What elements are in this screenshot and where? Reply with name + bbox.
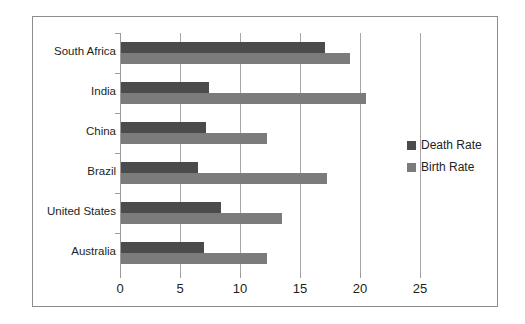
x-axis-label-25: 25 [413,281,427,296]
plot-area: South AfricaIndiaChinaBrazilUnited State… [120,33,450,273]
x-axis-label-20: 20 [353,281,367,296]
category-label-india: India [20,85,116,97]
gridline-15 [300,33,301,273]
x-axis-label-0: 0 [116,281,123,296]
bar-birth-rate-south-africa [121,53,350,64]
category-label-china: China [20,125,116,137]
x-axis-label-10: 10 [233,281,247,296]
value-axis-line [120,33,121,273]
chart-legend: Death RateBirth Rate [407,134,497,178]
gridline-20 [360,33,361,273]
bar-birth-rate-united-states [121,213,282,224]
category-axis-labels: South AfricaIndiaChinaBrazilUnited State… [16,33,116,273]
gridline-10 [240,33,241,273]
chart-figure: South AfricaIndiaChinaBrazilUnited State… [32,16,498,307]
category-label-south-africa: South Africa [20,45,116,57]
legend-item-death-rate[interactable]: Death Rate [407,134,497,156]
category-label-brazil: Brazil [20,165,116,177]
legend-label: Death Rate [421,138,482,152]
category-label-australia: Australia [20,245,116,257]
category-label-united-states: United States [20,205,116,217]
bar-birth-rate-india [121,93,366,104]
x-axis-label-15: 15 [293,281,307,296]
bar-death-rate-united-states [121,202,221,213]
legend-label: Birth Rate [421,160,474,174]
bar-birth-rate-australia [121,253,267,264]
legend-swatch-icon [407,141,416,150]
bar-death-rate-south-africa [121,42,325,53]
bar-death-rate-india [121,82,209,93]
bar-death-rate-brazil [121,162,198,173]
bar-death-rate-china [121,122,206,133]
bar-birth-rate-brazil [121,173,327,184]
value-axis-labels: 0510152025 [120,273,450,299]
gridline-5 [180,33,181,273]
legend-swatch-icon [407,163,416,172]
legend-item-birth-rate[interactable]: Birth Rate [407,156,497,178]
x-axis-label-5: 5 [176,281,183,296]
bar-death-rate-australia [121,242,204,253]
bar-birth-rate-china [121,133,267,144]
